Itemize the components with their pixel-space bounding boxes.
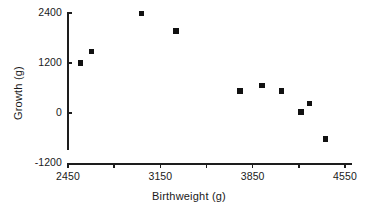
y-axis-spine [67, 13, 69, 150]
x-axis-tick [160, 163, 162, 168]
x-tick-label: 2450 [38, 170, 98, 182]
x-tick-label: 4550 [315, 170, 375, 182]
y-axis-tick [67, 62, 72, 64]
data-point [279, 88, 284, 93]
data-point [89, 49, 94, 54]
data-point [259, 83, 264, 88]
x-axis-tick [67, 163, 69, 168]
data-point [139, 11, 144, 16]
x-axis-tick [113, 163, 115, 168]
scatter-plot-figure: -1200012002400 2450315038504550 Birthwei… [0, 0, 378, 209]
x-axis-spine [68, 163, 352, 165]
data-point [78, 60, 83, 65]
x-tick-label: 3850 [223, 170, 283, 182]
y-axis-title: Growth (g) [12, 66, 24, 120]
data-point [298, 109, 303, 114]
y-tick-label: 1200 [38, 56, 62, 68]
x-tick-label: 3150 [130, 170, 190, 182]
data-point [307, 101, 312, 106]
y-axis-tick [67, 112, 72, 114]
data-point [237, 88, 242, 93]
y-tick-label: 0 [56, 106, 62, 118]
y-tick-label: 2400 [38, 6, 62, 18]
x-axis-tick [206, 163, 208, 168]
y-axis-tick [67, 12, 72, 14]
x-axis-title: Birthweight (g) [0, 190, 378, 202]
x-axis-tick [298, 163, 300, 168]
data-point [323, 136, 328, 141]
x-axis-tick [252, 163, 254, 168]
y-tick-label: -1200 [35, 156, 62, 168]
x-axis-tick [344, 163, 346, 168]
plot-area: -1200012002400 2450315038504550 Birthwei… [0, 0, 378, 209]
data-point [173, 28, 178, 33]
